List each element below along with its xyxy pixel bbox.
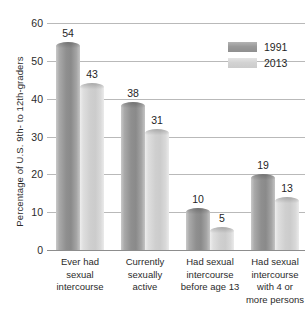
y-tick-label-10: 10 [9, 206, 43, 218]
bar-top-shading [56, 42, 80, 50]
bar-body [275, 201, 299, 250]
category-label-line: intercourse [177, 269, 243, 282]
axis-line-zero [47, 250, 305, 251]
category-label-line: with 4 or [242, 281, 307, 294]
category-label: Currentlysexuallyactive [112, 256, 178, 294]
legend: 19912013 [228, 39, 287, 71]
legend-swatch [228, 42, 257, 52]
legend-item[interactable]: 2013 [228, 55, 287, 71]
category-label: Had sexualintercoursewith 4 ormore perso… [242, 256, 307, 306]
category-label-line: intercourse [47, 281, 113, 294]
y-tick-label-30: 30 [9, 131, 43, 143]
legend-swatch [228, 58, 257, 68]
bar-body [80, 87, 104, 250]
bar-value-label: 13 [281, 182, 293, 194]
bar[interactable] [80, 83, 104, 250]
bar-group: 3831 [121, 23, 169, 250]
bar-value-label: 5 [219, 212, 225, 224]
bar-top-shading [275, 197, 299, 205]
bar-value-label: 10 [192, 193, 204, 205]
legend-label: 1991 [264, 41, 287, 53]
bar[interactable] [56, 42, 80, 250]
category-label: Had sexualintercoursebefore age 13 [177, 256, 243, 294]
category-label-line: Currently [112, 256, 178, 269]
bar[interactable] [251, 174, 275, 250]
category-label-line: Had sexual [177, 256, 243, 269]
category-label-line: intercourse [242, 269, 307, 282]
y-tick-label-60: 60 [9, 17, 43, 29]
bar-body [186, 212, 210, 250]
bar-value-label: 31 [151, 114, 163, 126]
bar-body [121, 106, 145, 250]
bar-value-label: 54 [62, 27, 74, 39]
category-label: Ever hadsexualintercourse [47, 256, 113, 294]
y-tick-label-50: 50 [9, 55, 43, 67]
bar-value-label: 19 [257, 159, 269, 171]
y-tick-label-40: 40 [9, 93, 43, 105]
bar-group: 5443 [56, 23, 104, 250]
category-label-line: more persons [242, 294, 307, 307]
bar-body [251, 178, 275, 250]
bar[interactable] [121, 102, 145, 250]
y-tick-label-0: 0 [9, 244, 43, 256]
legend-item[interactable]: 1991 [228, 39, 287, 55]
category-label-line: sexually [112, 269, 178, 282]
bar-chart: Percentage of U.S. 9th- to 12th-graders … [0, 0, 307, 314]
category-label-line: active [112, 281, 178, 294]
bar[interactable] [186, 208, 210, 250]
bar-value-label: 38 [127, 87, 139, 99]
bar-body [56, 46, 80, 250]
bar-top-shading [145, 129, 169, 137]
bar[interactable] [275, 197, 299, 250]
bar[interactable] [145, 129, 169, 250]
x-axis-category-labels: Ever hadsexualintercourseCurrentlysexual… [47, 256, 305, 314]
category-label-line: Ever had [47, 256, 113, 269]
y-tick-label-20: 20 [9, 168, 43, 180]
y-axis-tick-labels: 0102030405060 [5, 23, 43, 250]
bar-group: 105 [186, 23, 234, 250]
category-label-line: sexual [47, 269, 113, 282]
category-label-line: Had sexual [242, 256, 307, 269]
category-label-line: before age 13 [177, 281, 243, 294]
bar[interactable] [210, 227, 234, 250]
legend-label: 2013 [264, 57, 287, 69]
bar-body [145, 133, 169, 250]
bar-value-label: 43 [86, 68, 98, 80]
